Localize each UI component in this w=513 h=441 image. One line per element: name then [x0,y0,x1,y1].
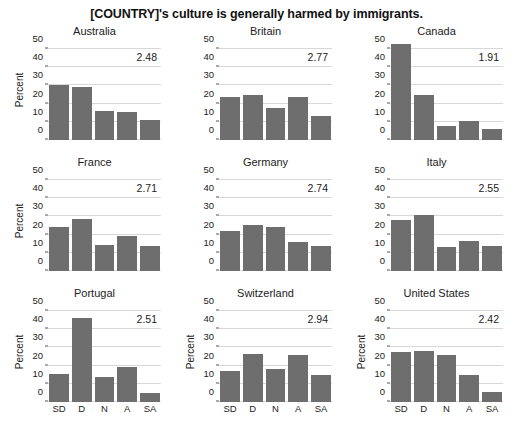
plot-wrap: Percent010203040502.51 [0,302,161,402]
panel-switzerland: SwitzerlandPercent010203040502.94SDDNASA [171,285,342,423]
y-tick-label: 10 [374,105,390,116]
bar-series [390,40,503,140]
bar-SD [220,97,240,140]
y-tick-label: 10 [32,236,48,247]
y-tick-label: 10 [203,105,219,116]
bar-SA [140,120,160,140]
y-tick-label: 30 [32,69,48,80]
y-tick-label: 50 [203,295,219,306]
x-tick-label-N: N [95,402,115,416]
y-tick-label: 0 [209,124,219,135]
x-axis: SDDNASA [171,402,332,418]
bar-SA [311,116,331,140]
panel-title: France [0,154,171,171]
x-tick-labels: SDDNASA [48,402,161,416]
y-tick-label: 0 [380,124,390,135]
y-tick-label: 50 [32,33,48,44]
panel-france: FrancePercent010203040502.71SDDNASA [0,154,171,285]
y-tick-label: 0 [38,124,48,135]
bar-N [266,227,286,271]
x-tick-label-D: D [72,402,92,416]
y-tick-label: 30 [203,69,219,80]
bar-D [414,95,434,140]
y-tick-label: 30 [203,331,219,342]
bar-A [459,121,479,140]
y-tick-label: 50 [203,33,219,44]
bar-N [266,369,286,402]
y-tick-label: 0 [380,386,390,397]
bar-series [390,302,503,402]
bar-D [72,87,92,140]
plot-wrap: Percent010203040502.48 [0,40,161,140]
y-tick-label: 0 [380,255,390,266]
x-tick-label-SD: SD [220,402,240,416]
bar-A [117,367,137,402]
bar-D [414,351,434,402]
y-tick-label: 40 [374,182,390,193]
y-tick-label: 30 [32,200,48,211]
bar-SD [391,220,411,271]
y-tick-label: 20 [32,87,48,98]
y-tick-label: 20 [203,349,219,360]
bar-D [243,225,263,271]
bar-A [117,236,137,271]
panel-title: Britain [171,23,342,40]
y-axis-label: Percent [356,335,367,369]
y-tick-label: 0 [209,386,219,397]
y-tick-label: 20 [374,87,390,98]
y-tick-label: 30 [32,331,48,342]
plot-area: 010203040502.71 [48,171,161,271]
plot-wrap: Percent010203040502.55 [342,171,503,271]
plot-area: 010203040502.74 [219,171,332,271]
y-tick-label: 40 [203,51,219,62]
y-tick-label: 20 [203,218,219,229]
panel-title: Switzerland [171,285,342,302]
bar-SA [311,246,331,271]
bar-N [95,111,115,140]
y-tick-label: 50 [374,295,390,306]
y-tick-label: 20 [374,218,390,229]
figure-title: [COUNTRY]'s culture is generally harmed … [0,0,513,21]
bar-N [437,126,457,140]
plot-area: 010203040502.48 [48,40,161,140]
plot-wrap: Percent010203040502.94 [171,302,332,402]
plot-wrap: Percent010203040502.42 [342,302,503,402]
bar-SD [220,231,240,271]
y-tick-label: 50 [374,33,390,44]
y-tick-label: 40 [203,182,219,193]
bar-N [437,355,457,402]
bar-series [219,302,332,402]
y-tick-label: 50 [32,295,48,306]
bar-SA [482,129,502,140]
y-tick-label: 0 [209,255,219,266]
y-tick-label: 20 [374,349,390,360]
bar-N [437,247,457,271]
panel-italy: ItalyPercent010203040502.55SDDNASA [342,154,513,285]
panel-united-states: United StatesPercent010203040502.42SDDNA… [342,285,513,423]
y-tick-label: 10 [203,236,219,247]
bar-series [219,40,332,140]
y-tick-label: 10 [374,367,390,378]
y-axis-label: Percent [14,204,25,238]
panel-grid: AustraliaPercent010203040502.48SDDNASABr… [0,23,513,423]
panel-title: Canada [342,23,513,40]
plot-area: 010203040502.42 [390,302,503,402]
x-tick-label-N: N [266,402,286,416]
y-tick-label: 50 [203,164,219,175]
y-tick-label: 10 [203,367,219,378]
x-axis: SDDNASA [342,402,503,418]
x-tick-label-SA: SA [482,402,502,416]
bar-series [219,171,332,271]
bar-D [72,219,92,271]
panel-portugal: PortugalPercent010203040502.51SDDNASA [0,285,171,423]
bar-A [288,242,308,271]
x-tick-label-N: N [437,402,457,416]
panel-canada: CanadaPercent010203040501.91SDDNASA [342,23,513,154]
plot-wrap: Percent010203040502.77 [171,40,332,140]
plot-wrap: Percent010203040501.91 [342,40,503,140]
plot-wrap: Percent010203040502.74 [171,171,332,271]
y-tick-label: 50 [32,164,48,175]
plot-wrap: Percent010203040502.71 [0,171,161,271]
bar-SA [482,246,502,271]
bar-N [95,377,115,402]
